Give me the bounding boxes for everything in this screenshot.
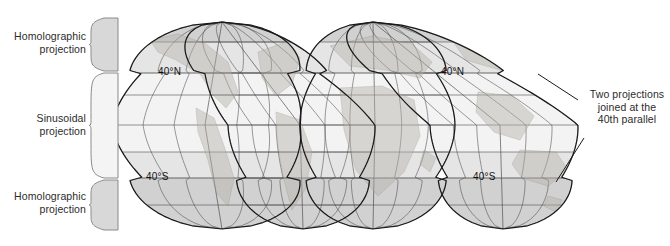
- graticule-label-40s-right: 40°S: [473, 171, 496, 182]
- label-sinusoidal: Sinusoidal projection: [2, 112, 86, 137]
- projection-map-svg: [0, 0, 670, 246]
- label-homolographic-bottom: Homolographic projection: [2, 190, 86, 215]
- annotation-joined-at-40th-parallel: Two projections joined at the 40th paral…: [584, 88, 670, 126]
- brace-homolographic-bottom: [89, 180, 118, 230]
- label-homolographic-top: Homolographic projection: [2, 30, 86, 55]
- homolosine-projection-figure: Homolographic projection Sinusoidal proj…: [0, 0, 670, 246]
- graticule-label-40n-right: 40°N: [441, 66, 464, 77]
- leader-upper: [538, 74, 578, 100]
- graticule-label-40n-left: 40°N: [158, 66, 181, 77]
- graticule-label-40s-left: 40°S: [146, 171, 169, 182]
- brace-homolographic-top: [89, 18, 118, 71]
- brace-sinusoidal: [89, 73, 118, 178]
- projection-braces: [89, 18, 118, 230]
